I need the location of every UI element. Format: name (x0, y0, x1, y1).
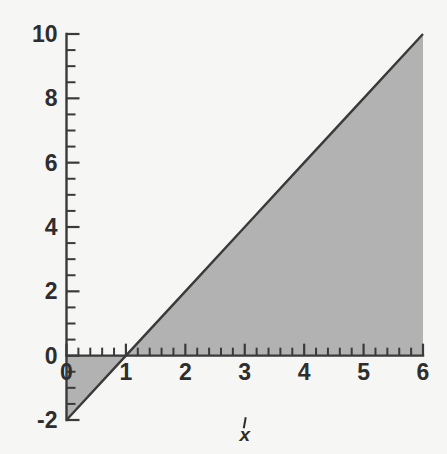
y-tick-label: 2 (45, 278, 58, 304)
x-tick-label: 6 (417, 359, 430, 385)
x-tick-label: 1 (120, 359, 133, 385)
x-tick-label: 0 (60, 359, 73, 385)
y-tick-label: 6 (45, 150, 58, 176)
y-tick-label: 4 (45, 214, 58, 240)
x-axis-title: x (238, 424, 251, 445)
x-tick-label: 2 (179, 359, 192, 385)
y-tick-label: 0 (45, 343, 58, 369)
chart-figure: 0123456 -20246810 x (0, 0, 447, 454)
x-tick-label: 5 (357, 359, 370, 385)
plot-canvas: 0123456 -20246810 x (0, 0, 447, 454)
y-tick-label: -2 (37, 407, 57, 433)
y-tick-label: 10 (32, 21, 58, 47)
y-tick-label: 8 (45, 85, 58, 111)
x-tick-label: 4 (298, 359, 311, 385)
x-tick-label: 3 (238, 359, 251, 385)
